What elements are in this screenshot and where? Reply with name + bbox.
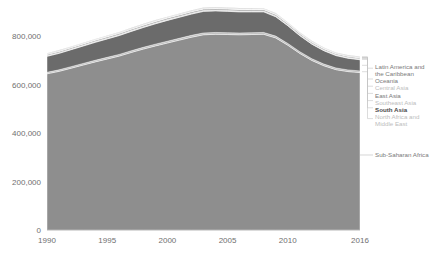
legend-label[interactable]: Oceania xyxy=(375,77,399,84)
y-axis-tick-label: 600,000 xyxy=(12,81,41,90)
legend-label[interactable]: Central Asia xyxy=(375,84,409,91)
stacked-area-chart: 0200,000400,000600,000800,00019901995200… xyxy=(0,0,446,259)
x-axis-tick-label: 2005 xyxy=(219,236,237,245)
x-axis-tick-label: 2010 xyxy=(279,236,297,245)
legend-label[interactable]: Latin America and xyxy=(375,63,425,70)
x-axis-tick-label: 1995 xyxy=(98,236,116,245)
legend-label[interactable]: Sub-Saharan Africa xyxy=(375,151,429,158)
x-axis-tick-label: 1990 xyxy=(38,236,56,245)
x-axis-tick-label: 2000 xyxy=(158,236,176,245)
legend-label[interactable]: Southeast Asia xyxy=(375,99,417,106)
legend-label[interactable]: the Caribbean xyxy=(375,70,414,77)
y-axis-tick-label: 0 xyxy=(37,226,42,235)
y-axis-tick-label: 800,000 xyxy=(12,32,41,41)
chart-canvas: 0200,000400,000600,000800,00019901995200… xyxy=(0,0,446,259)
x-axis-tick-label: 2016 xyxy=(351,236,369,245)
area-band xyxy=(47,34,360,230)
y-axis-tick-label: 400,000 xyxy=(12,129,41,138)
legend-label[interactable]: North Africa and xyxy=(375,113,420,120)
legend-label[interactable]: Middle East xyxy=(375,120,408,127)
legend-label[interactable]: East Asia xyxy=(375,92,401,99)
y-axis-tick-label: 200,000 xyxy=(12,178,41,187)
legend-label[interactable]: South Asia xyxy=(375,106,408,113)
